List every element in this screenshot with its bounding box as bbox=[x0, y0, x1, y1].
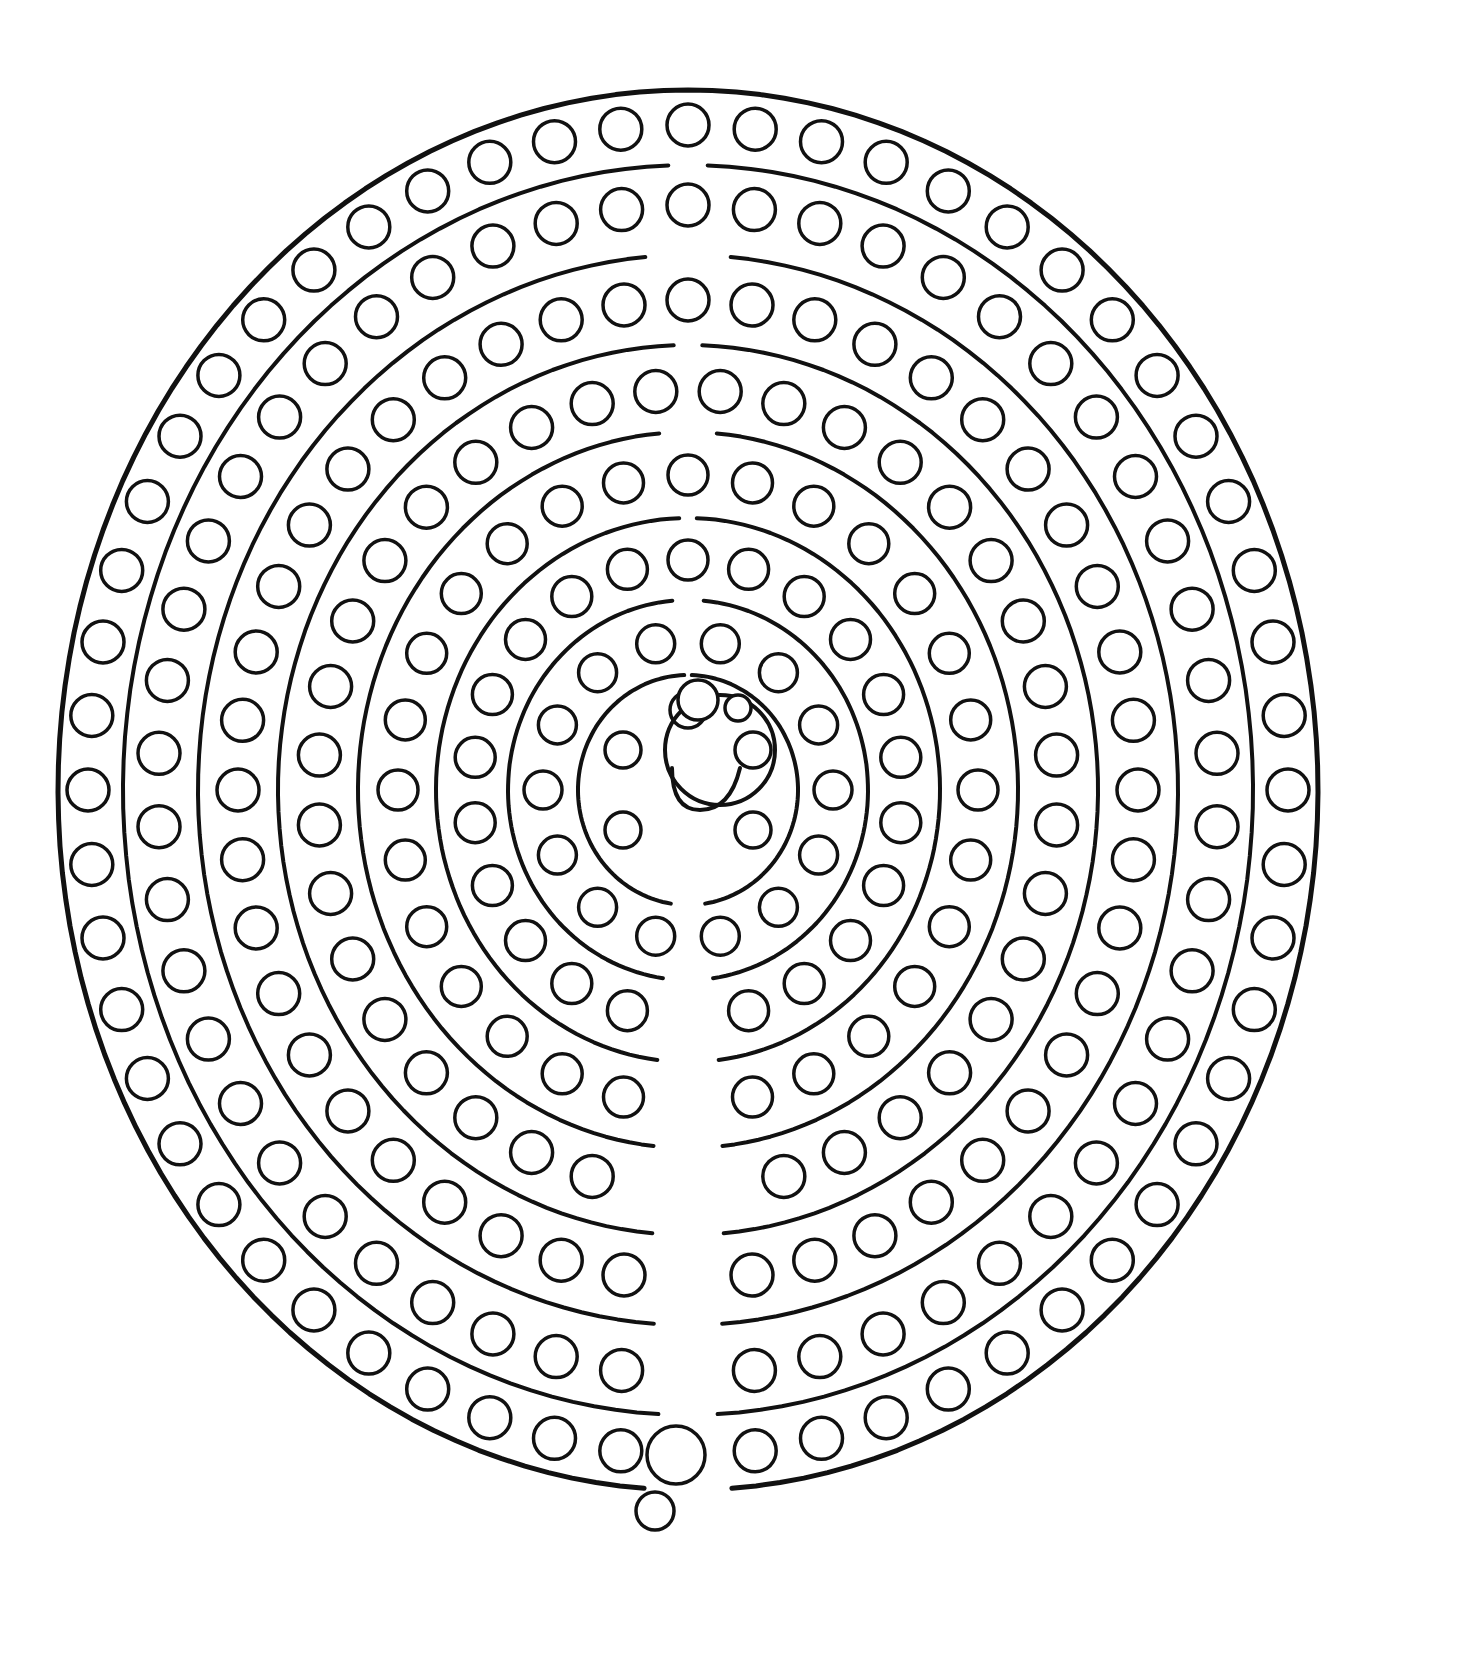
color-dot bbox=[864, 866, 904, 906]
color-dot bbox=[1075, 396, 1117, 438]
color-dot bbox=[424, 1181, 466, 1223]
color-dot bbox=[1041, 1289, 1083, 1331]
color-dot bbox=[487, 524, 527, 564]
color-dot bbox=[1024, 873, 1066, 915]
color-dot bbox=[979, 1242, 1021, 1284]
color-dot bbox=[348, 206, 390, 248]
color-dot bbox=[910, 1181, 952, 1223]
color-dot bbox=[469, 1397, 511, 1439]
color-dot bbox=[455, 1097, 497, 1139]
color-dot bbox=[1112, 839, 1154, 881]
color-dot bbox=[1046, 504, 1088, 546]
color-dot bbox=[929, 486, 971, 528]
color-dot bbox=[794, 1054, 834, 1094]
color-dot bbox=[579, 654, 617, 692]
color-dot bbox=[1175, 1123, 1217, 1165]
color-dot bbox=[970, 540, 1012, 582]
color-dot bbox=[600, 1430, 642, 1472]
color-dot bbox=[605, 732, 641, 768]
color-dot bbox=[288, 504, 330, 546]
color-dot bbox=[831, 921, 871, 961]
color-dot bbox=[378, 770, 418, 810]
color-dot bbox=[986, 1332, 1028, 1374]
color-dot bbox=[126, 1058, 168, 1100]
color-dot bbox=[849, 524, 889, 564]
color-dot bbox=[222, 839, 264, 881]
color-dot bbox=[733, 1077, 773, 1117]
color-dot bbox=[472, 225, 514, 267]
color-dot bbox=[480, 323, 522, 365]
color-dot bbox=[699, 371, 741, 413]
color-dot bbox=[1171, 950, 1213, 992]
color-dot bbox=[910, 357, 952, 399]
color-dot bbox=[288, 1034, 330, 1076]
color-dot bbox=[534, 1417, 576, 1459]
color-dot bbox=[327, 448, 369, 490]
color-dot bbox=[1076, 973, 1118, 1015]
color-dot bbox=[823, 407, 865, 449]
color-dot bbox=[412, 1282, 454, 1324]
color-dot bbox=[220, 1083, 262, 1125]
color-dot bbox=[1233, 989, 1275, 1031]
color-dot bbox=[759, 654, 797, 692]
color-dot bbox=[538, 836, 576, 874]
color-dot bbox=[1263, 695, 1305, 737]
center-dot bbox=[678, 680, 718, 720]
color-dot bbox=[348, 1332, 390, 1374]
color-dot bbox=[1115, 456, 1157, 498]
color-dot bbox=[854, 323, 896, 365]
color-dot bbox=[1263, 844, 1305, 886]
color-dot bbox=[1267, 769, 1309, 811]
color-dot bbox=[138, 732, 180, 774]
color-dot bbox=[635, 371, 677, 413]
color-dot bbox=[487, 1016, 527, 1056]
color-dot bbox=[763, 383, 805, 425]
color-dot bbox=[794, 486, 834, 526]
color-dot bbox=[385, 840, 425, 880]
color-dot bbox=[1208, 481, 1250, 523]
color-dot bbox=[603, 1254, 645, 1296]
color-dot bbox=[1188, 879, 1230, 921]
color-dot bbox=[235, 907, 277, 949]
color-dot bbox=[310, 873, 352, 915]
color-dot bbox=[604, 1077, 644, 1117]
color-dot bbox=[552, 964, 592, 1004]
color-dot bbox=[1147, 520, 1189, 562]
color-dot bbox=[970, 998, 1012, 1040]
color-dot bbox=[146, 659, 188, 701]
color-dot bbox=[784, 577, 824, 617]
color-dot bbox=[929, 907, 969, 947]
color-dot bbox=[733, 463, 773, 503]
color-dot bbox=[1112, 699, 1154, 741]
color-dot bbox=[243, 299, 285, 341]
color-dot bbox=[187, 520, 229, 562]
color-dot bbox=[1171, 588, 1213, 630]
color-dot bbox=[332, 600, 374, 642]
color-dot bbox=[455, 803, 495, 843]
color-dot bbox=[951, 840, 991, 880]
color-dot bbox=[235, 631, 277, 673]
color-dot bbox=[701, 625, 739, 663]
color-dot bbox=[831, 619, 871, 659]
color-dot bbox=[667, 279, 709, 321]
color-dot bbox=[799, 202, 841, 244]
color-dot bbox=[800, 706, 838, 744]
color-dot bbox=[986, 206, 1028, 248]
color-dot bbox=[667, 104, 709, 146]
color-dot bbox=[506, 921, 546, 961]
color-dot bbox=[1076, 565, 1118, 607]
color-dot bbox=[356, 1242, 398, 1284]
color-dot bbox=[794, 1239, 836, 1281]
color-dot bbox=[600, 108, 642, 150]
color-dot bbox=[424, 357, 466, 399]
color-dot bbox=[601, 1349, 643, 1391]
color-dot bbox=[865, 141, 907, 183]
color-dot bbox=[667, 184, 709, 226]
color-dot bbox=[1136, 1184, 1178, 1226]
color-dot bbox=[1208, 1058, 1250, 1100]
color-dot bbox=[385, 700, 425, 740]
color-dot bbox=[441, 966, 481, 1006]
color-dot bbox=[71, 695, 113, 737]
color-dot bbox=[405, 1052, 447, 1094]
color-dot bbox=[298, 804, 340, 846]
